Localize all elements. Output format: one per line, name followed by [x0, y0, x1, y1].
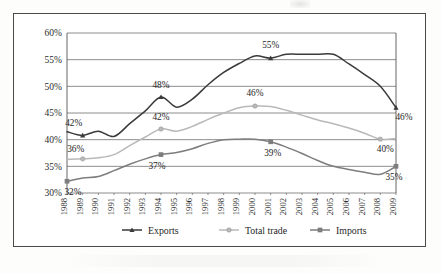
legend-label-exports: Exports — [148, 225, 179, 236]
data-point-label: 37% — [148, 161, 165, 171]
x-axis-tick-label: 1996 — [184, 197, 194, 215]
x-axis-tick-label: 1997 — [200, 197, 210, 215]
y-axis-tick-label: 60% — [45, 28, 63, 38]
scan-artifact-top — [290, 0, 310, 8]
x-axis-labels-group: 1988198919901991199219931994199519961997… — [59, 193, 398, 215]
data-point-label: 32% — [64, 187, 81, 197]
x-axis-tick-label: 2006 — [341, 197, 351, 215]
y-axis-tick-label: 55% — [45, 55, 63, 65]
data-point-marker — [318, 228, 323, 233]
y-axis-tick-label: 40% — [45, 135, 63, 145]
data-point-marker — [65, 179, 70, 184]
x-axis-tick-label: 2003 — [294, 198, 304, 215]
x-axis-tick-label: 2001 — [263, 198, 273, 215]
y-axis-tick-label: 50% — [45, 82, 63, 92]
series-group — [65, 54, 399, 184]
x-axis-tick-label: 1988 — [59, 198, 69, 215]
data-point-marker — [80, 157, 84, 161]
data-point-label: 40% — [377, 144, 394, 154]
data-point-label: 55% — [262, 40, 279, 50]
data-point-label: 46% — [395, 112, 412, 122]
data-point-marker — [394, 164, 399, 169]
data-point-label: 42% — [152, 112, 169, 122]
x-axis-tick-label: 1995 — [169, 198, 179, 215]
y-axis-labels-group: 30%35%40%45%50%55%60% — [45, 28, 63, 198]
data-point-marker — [227, 228, 231, 232]
x-axis-tick-label: 1999 — [231, 198, 241, 215]
data-point-label: 39% — [264, 148, 281, 158]
series-line-imports — [67, 139, 396, 181]
data-point-marker — [268, 139, 273, 144]
x-axis-tick-label: 1992 — [122, 198, 132, 215]
legend-label-imports: Imports — [336, 225, 367, 236]
line-chart: 30%35%40%45%50%55%60% 198819891990199119… — [14, 14, 425, 246]
x-axis-tick-label: 2004 — [310, 197, 320, 215]
x-axis-tick-label: 2007 — [357, 197, 367, 215]
x-axis-tick-label: 2002 — [278, 198, 288, 215]
x-axis-tick-label: 2000 — [247, 198, 257, 215]
y-axis-tick-label: 30% — [45, 188, 63, 198]
scan-artifact-bottom — [60, 255, 390, 267]
data-point-marker — [159, 152, 164, 157]
x-axis-tick-label: 1998 — [216, 198, 226, 215]
chart-legend: ExportsTotal tradeImports — [122, 225, 367, 236]
y-axis-tick-label: 35% — [45, 162, 63, 172]
x-axis-tick-label: 1994 — [153, 197, 163, 215]
legend-label-total-trade: Total trade — [245, 225, 288, 236]
chart-figure-frame: 30%35%40%45%50%55%60% 198819891990199119… — [13, 13, 426, 247]
x-axis-tick-label: 1989 — [75, 198, 85, 215]
x-axis-tick-label: 1991 — [106, 198, 116, 215]
y-axis-tick-label: 45% — [45, 108, 63, 118]
data-point-label: 48% — [152, 80, 169, 90]
x-axis-tick-label: 1990 — [90, 198, 100, 215]
data-point-marker — [253, 104, 257, 108]
data-point-marker — [159, 127, 163, 131]
series-line-total-trade — [67, 106, 396, 159]
data-point-marker — [378, 137, 382, 141]
data-point-label: 46% — [246, 88, 263, 98]
x-axis-tick-label: 2005 — [325, 198, 335, 215]
x-axis-tick-label: 1993 — [137, 198, 147, 215]
data-point-label: 42% — [65, 118, 82, 128]
x-axis-tick-label: 2009 — [388, 198, 398, 215]
series-line-exports — [67, 54, 396, 137]
x-axis-tick-label: 2008 — [372, 198, 382, 215]
data-point-label: 35% — [385, 172, 402, 182]
data-point-label: 36% — [67, 144, 84, 154]
